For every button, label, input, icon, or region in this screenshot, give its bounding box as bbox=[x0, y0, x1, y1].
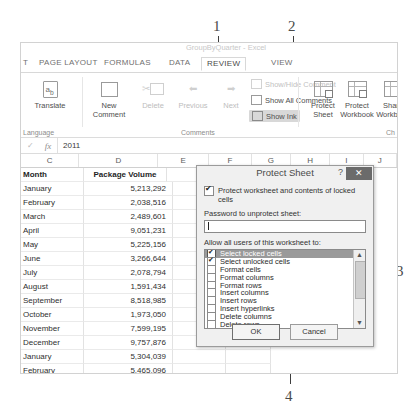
show-ink-icon bbox=[252, 111, 263, 121]
cell-volume[interactable]: 1,591,434 bbox=[84, 280, 173, 294]
dialog-body: Protect worksheet and contents of locked… bbox=[197, 182, 373, 329]
listbox-scrollbar[interactable]: ▲ ▼ bbox=[353, 250, 365, 328]
ribbon-tab-strip: T PAGE LAYOUT FORMULAS DATA REVIEW VIEW bbox=[21, 57, 397, 73]
new-comment-button[interactable]: New Comment bbox=[85, 77, 133, 119]
cell-month[interactable]: January bbox=[21, 350, 84, 364]
cell-blank-e[interactable] bbox=[173, 364, 226, 374]
callout-number-4: 4 bbox=[285, 388, 293, 405]
protect-sheet-dialog: Protect Sheet ? ✕ Protect worksheet and … bbox=[196, 165, 374, 347]
cell-volume[interactable]: 5,225,156 bbox=[84, 238, 173, 252]
tab-text-truncated[interactable]: T bbox=[23, 58, 28, 67]
column-header-d[interactable]: D bbox=[79, 154, 158, 167]
cell-blank-f[interactable] bbox=[226, 350, 271, 364]
cell-month[interactable]: February bbox=[21, 196, 84, 210]
dialog-title-bar: Protect Sheet ? ✕ bbox=[197, 166, 373, 182]
confirm-entry-icon[interactable]: ✓ bbox=[21, 141, 39, 150]
new-comment-label-1: New bbox=[85, 101, 133, 110]
header-cell-month[interactable]: Month bbox=[21, 168, 84, 182]
cell-month[interactable]: March bbox=[21, 210, 84, 224]
cell-month[interactable]: February bbox=[21, 364, 84, 374]
cell-volume[interactable]: 5,304,039 bbox=[84, 350, 173, 364]
cell-month[interactable]: May bbox=[21, 238, 84, 252]
callout-number-1: 1 bbox=[213, 18, 221, 35]
cell-volume[interactable]: 5,213,292 bbox=[84, 182, 173, 196]
cell-month[interactable]: November bbox=[21, 322, 84, 336]
cell-month[interactable]: January bbox=[21, 182, 84, 196]
translate-button[interactable]: ab Translate bbox=[26, 77, 74, 110]
show-all-comments-icon bbox=[251, 95, 262, 105]
next-comment-button[interactable]: ➡ Next bbox=[207, 77, 255, 110]
dialog-button-row: OK Cancel bbox=[197, 324, 373, 340]
cell-volume[interactable]: 5,465,096 bbox=[84, 364, 173, 374]
translate-icon: ab bbox=[26, 77, 74, 101]
cell-volume[interactable]: 7,599,195 bbox=[84, 322, 173, 336]
group-label-language: Language bbox=[23, 129, 54, 136]
show-ink-button[interactable]: Show Ink bbox=[249, 110, 300, 122]
callout-number-2: 2 bbox=[288, 18, 296, 35]
share-workbook-icon bbox=[369, 77, 398, 101]
cell-volume[interactable]: 1,973,050 bbox=[84, 308, 173, 322]
share-workbook-button[interactable]: Share Workbook bbox=[369, 77, 398, 119]
protect-worksheet-checkbox[interactable]: Protect worksheet and contents of locked… bbox=[204, 186, 366, 204]
ribbon-group-changes: Protect Sheet Protect Workbook Share Wor… bbox=[299, 73, 397, 137]
tab-view[interactable]: VIEW bbox=[271, 58, 293, 67]
password-label: Password to unprotect sheet: bbox=[204, 209, 366, 218]
cell-month[interactable]: August bbox=[21, 280, 84, 294]
text-caret bbox=[208, 222, 209, 230]
next-comment-label: Next bbox=[207, 101, 255, 110]
new-comment-label-2: Comment bbox=[85, 110, 133, 119]
show-ink-label: Show Ink bbox=[266, 112, 297, 121]
table-row: February5,465,096 bbox=[21, 364, 397, 374]
show-hide-comment-icon bbox=[251, 79, 262, 89]
permissions-listbox[interactable]: Select locked cellsSelect unlocked cells… bbox=[204, 249, 366, 329]
share-workbook-label-2: Workbook bbox=[369, 110, 398, 119]
ribbon-group-comments: New Comment ✂ Delete ⬅ Previous ➡ Next S… bbox=[83, 73, 313, 137]
cell-month[interactable]: April bbox=[21, 224, 84, 238]
window-title-bar: GroupByQuarter - Excel bbox=[21, 43, 397, 57]
tab-review[interactable]: REVIEW bbox=[201, 57, 246, 71]
allow-users-label: Allow all users of this worksheet to: bbox=[204, 238, 366, 247]
new-comment-icon bbox=[85, 77, 133, 101]
cell-blank-f[interactable] bbox=[226, 364, 271, 374]
formula-input[interactable]: 2011 bbox=[57, 138, 397, 153]
ribbon-group-language: ab Translate Language bbox=[21, 73, 81, 137]
group-label-changes: Ch bbox=[386, 129, 395, 136]
cell-volume[interactable]: 9,051,231 bbox=[84, 224, 173, 238]
header-cell-volume[interactable]: Package Volume bbox=[84, 168, 167, 182]
cell-month[interactable]: July bbox=[21, 266, 84, 280]
scroll-up-icon[interactable]: ▲ bbox=[354, 250, 365, 260]
app-title: GroupByQuarter - Excel bbox=[186, 43, 266, 52]
cell-volume[interactable]: 2,038,516 bbox=[84, 196, 173, 210]
password-input[interactable] bbox=[204, 220, 366, 233]
group-label-comments: Comments bbox=[181, 129, 215, 136]
column-header-c[interactable]: C bbox=[21, 154, 79, 167]
cell-volume[interactable]: 8,518,985 bbox=[84, 294, 173, 308]
scrollbar-thumb[interactable] bbox=[355, 261, 366, 299]
permissions-list: Select locked cellsSelect unlocked cells… bbox=[205, 250, 354, 328]
cell-volume[interactable]: 2,489,601 bbox=[84, 210, 173, 224]
cell-month[interactable]: September bbox=[21, 294, 84, 308]
cell-blank-e[interactable] bbox=[173, 350, 226, 364]
protect-worksheet-checkbox-label: Protect worksheet and contents of locked… bbox=[218, 186, 366, 204]
ribbon: ab Translate Language New Comment ✂ Dele… bbox=[21, 73, 397, 138]
help-icon[interactable]: ? bbox=[338, 167, 343, 177]
tab-page-layout[interactable]: PAGE LAYOUT bbox=[39, 58, 98, 67]
cell-volume[interactable]: 3,266,644 bbox=[84, 252, 173, 266]
cell-month[interactable]: October bbox=[21, 308, 84, 322]
table-row: January5,304,039 bbox=[21, 350, 397, 364]
share-workbook-label-1: Share bbox=[369, 101, 398, 110]
cell-volume[interactable]: 2,078,794 bbox=[84, 266, 173, 280]
checkbox-icon bbox=[204, 186, 214, 196]
tab-formulas[interactable]: FORMULAS bbox=[104, 58, 151, 67]
formula-bar: ✓ fx 2011 bbox=[21, 138, 397, 154]
cancel-button[interactable]: Cancel bbox=[290, 324, 338, 340]
next-arrow-icon: ➡ bbox=[207, 77, 255, 101]
ok-button[interactable]: OK bbox=[232, 324, 280, 340]
tab-data[interactable]: DATA bbox=[169, 58, 190, 67]
insert-function-icon[interactable]: fx bbox=[39, 141, 57, 151]
cell-month[interactable]: June bbox=[21, 252, 84, 266]
translate-label: Translate bbox=[26, 101, 74, 110]
cell-volume[interactable]: 9,757,876 bbox=[84, 336, 173, 350]
close-icon[interactable]: ✕ bbox=[346, 167, 372, 180]
cell-month[interactable]: December bbox=[21, 336, 84, 350]
